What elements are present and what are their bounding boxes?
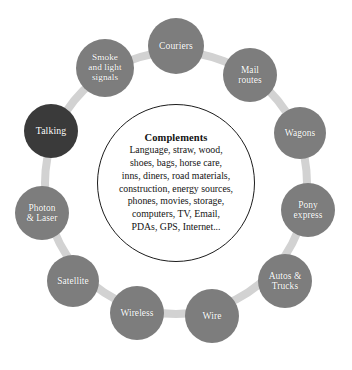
node-label: Ponyexpress — [281, 200, 335, 220]
center-title: Complements — [145, 132, 208, 143]
center-text-block: Complements Language, straw, wood,shoes,… — [97, 104, 255, 262]
node-label: Smokeand lightsignals — [76, 53, 134, 83]
node-label: Couriers — [148, 41, 204, 51]
center-line: Language, straw, wood, — [119, 144, 233, 157]
node-talking[interactable]: Talking — [24, 104, 78, 158]
center-line: phones, movies, storage, — [119, 195, 233, 208]
node-smoke-and-light-signals[interactable]: Smokeand lightsignals — [76, 39, 134, 97]
center-line: PDAs, GPS, Internet... — [119, 221, 233, 234]
center-lines: Language, straw, wood,shoes, bags, horse… — [119, 144, 233, 233]
node-autos-and-trucks[interactable]: Autos &Trucks — [258, 254, 312, 308]
node-label: Autos &Trucks — [258, 271, 312, 291]
node-couriers[interactable]: Couriers — [148, 18, 204, 74]
node-satellite[interactable]: Satellite — [47, 255, 99, 307]
node-label: Wireless — [110, 308, 164, 318]
node-wagons[interactable]: Wagons — [274, 107, 326, 159]
node-label: Wire — [185, 311, 239, 321]
node-label: Photon& Laser — [15, 203, 69, 223]
node-label: Satellite — [47, 276, 99, 286]
node-label: Mailroutes — [223, 65, 277, 85]
center-line: shoes, bags, horse care, — [119, 157, 233, 170]
node-wire[interactable]: Wire — [185, 289, 239, 343]
node-mail-routes[interactable]: Mailroutes — [223, 48, 277, 102]
node-label: Wagons — [274, 128, 326, 138]
diagram-canvas: CouriersMailroutesWagonsPonyexpressAutos… — [0, 0, 352, 370]
center-line: computers, TV, Email, — [119, 208, 233, 221]
node-pony-express[interactable]: Ponyexpress — [281, 183, 335, 237]
node-photon-and-laser[interactable]: Photon& Laser — [15, 186, 69, 240]
center-line: construction, energy sources, — [119, 183, 233, 196]
center-line: inns, diners, road materials, — [119, 170, 233, 183]
node-label: Talking — [24, 126, 78, 137]
node-wireless[interactable]: Wireless — [110, 286, 164, 340]
